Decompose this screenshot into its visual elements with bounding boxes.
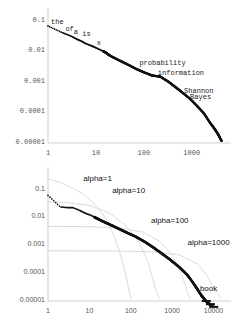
figure-container: 0.10.010.0010.00010.00001 1101001000 the… (0, 0, 233, 323)
top-annotation-1: of (65, 25, 73, 33)
bottom-data-point (47, 195, 49, 197)
top-data-point (50, 27, 52, 29)
top-x-tick: 100 (138, 149, 151, 157)
bottom-y-tick-labels: 0.10.010.0010.00010.00001 (20, 185, 45, 303)
top-annotation-4: x (97, 39, 101, 47)
bottom-annotations: alpha=1alpha=10alpha=100alpha=1000book (83, 174, 230, 294)
bottom-chart-svg: 0.10.010.0010.00010.00001 11010010001000… (0, 161, 233, 323)
bottom-tail-step-0 (202, 300, 211, 302)
bottom-data-point (51, 198, 53, 200)
bottom-data-point (57, 203, 59, 205)
bottom-x-tick: 1 (46, 307, 50, 314)
bottom-annotation-4: book (200, 284, 218, 293)
top-x-tick-labels: 1101001000 (46, 149, 200, 157)
bottom-data-point (49, 196, 51, 198)
bottom-x-tick: 100 (125, 307, 137, 314)
top-data-point (54, 28, 56, 30)
bottom-y-tick: 0.00001 (20, 296, 45, 303)
top-annotation-0: the (51, 18, 64, 26)
bottom-annotation-3: alpha=1000 (188, 238, 231, 247)
top-y-tick: 0.01 (28, 46, 45, 54)
bottom-annotation-0: alpha=1 (83, 174, 112, 183)
top-y-tick: 0.001 (24, 77, 45, 85)
top-annotation-8: Bayes (190, 93, 211, 101)
bottom-data-point (53, 200, 55, 202)
top-annotation-2: a (74, 28, 78, 36)
bottom-y-tick: 0.1 (35, 185, 45, 192)
top-x-tick: 1000 (183, 149, 200, 157)
bottom-y-tick: 0.01 (31, 212, 45, 219)
top-annotation-6: information (158, 69, 204, 77)
top-data-point (220, 140, 222, 142)
bottom-y-tick: 0.0001 (24, 268, 46, 275)
top-y-tick: 0.0001 (20, 107, 45, 115)
bottom-x-tick-labels: 110100100010000 (46, 307, 223, 314)
bottom-tail-step-2 (209, 306, 218, 308)
bottom-annotation-1: alpha=10 (112, 186, 146, 195)
bottom-y-tick: 0.001 (27, 240, 45, 247)
bottom-annotation-2: alpha=100 (151, 216, 189, 225)
top-y-tick-labels: 0.10.010.0010.00010.00001 (16, 16, 45, 146)
bottom-data-point (55, 202, 57, 204)
bottom-x-tick: 1000 (164, 307, 180, 314)
top-data-point (52, 27, 54, 29)
bottom-x-tick: 10 (85, 307, 93, 314)
top-annotation-3: is (82, 30, 90, 38)
top-chart-svg: 0.10.010.0010.00010.00001 1101001000 the… (0, 0, 233, 162)
fit-curve-alpha=1000 (48, 251, 222, 299)
bottom-tail-step-1 (206, 303, 215, 305)
top-y-tick: 0.00001 (16, 138, 45, 146)
bottom-data-point (59, 205, 61, 207)
top-data-point (59, 31, 61, 33)
fit-curve-alpha=100 (48, 226, 191, 299)
top-y-tick: 0.1 (32, 16, 45, 24)
bottom-x-tick: 10000 (204, 307, 224, 314)
top-x-tick: 10 (92, 149, 100, 157)
fit-curve-alpha=1 (48, 179, 132, 299)
chart-word-frequency: 0.10.010.0010.00010.00001 1101001000 the… (0, 0, 233, 162)
top-data-point (57, 30, 59, 32)
top-annotation-5: probability (139, 59, 185, 67)
top-x-tick: 1 (46, 149, 50, 157)
top-data-point (47, 25, 49, 27)
top-data-series (47, 25, 223, 142)
top-annotations: theofaisxprobabilityinformationShannonBa… (51, 18, 213, 101)
chart-zipf-mandelbrot-fits: 0.10.010.0010.00010.00001 11010010001000… (0, 161, 233, 323)
top-data-point (55, 29, 57, 31)
